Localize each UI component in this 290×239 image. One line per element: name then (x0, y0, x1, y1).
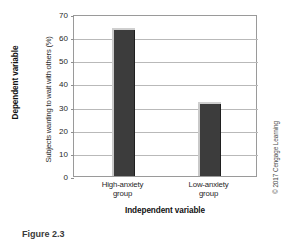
y-axis-tick-label: 30 (44, 105, 68, 113)
gridline (74, 109, 258, 110)
y-axis-tick-label: 40 (44, 81, 68, 89)
gridlines-group: 706050403020100 (74, 16, 258, 178)
bar (198, 104, 221, 176)
x-axis-category-line: group (174, 189, 244, 198)
dependent-variable-title: Dependent variable (11, 35, 20, 131)
bar-top-highlight (198, 102, 221, 104)
independent-variable-title: Independent variable (73, 206, 257, 215)
x-axis-category-line: High-anxiety (88, 180, 158, 189)
bar (112, 30, 135, 176)
y-axis-tick-label: 60 (44, 35, 68, 43)
figure-caption: Figure 2.3 (22, 229, 65, 239)
gridline (74, 85, 258, 86)
gridline (74, 62, 258, 63)
plot-area: 706050403020100 (73, 15, 257, 177)
y-axis-tick-mark (71, 109, 74, 110)
bar-top-highlight (112, 28, 135, 30)
x-axis-category-line: group (88, 189, 158, 198)
y-axis-tick-label: 10 (44, 151, 68, 159)
y-axis-tick-mark (71, 178, 74, 179)
gridline (74, 155, 258, 156)
x-axis-category-line: Low-anxiety (174, 180, 244, 189)
y-axis-tick-label: 0 (44, 174, 68, 182)
gridline (74, 132, 258, 133)
copyright-credit: © 2017 Cengage Learning (272, 102, 279, 214)
gridline (74, 39, 258, 40)
y-axis-tick-label: 50 (44, 58, 68, 66)
figure-container: Dependent variable Subjects wanting to w… (0, 0, 290, 239)
y-axis-tick-mark (71, 62, 74, 63)
x-axis-category-label: High-anxietygroup (88, 180, 158, 199)
y-axis-tick-label: 70 (44, 12, 68, 20)
y-axis-tick-mark (71, 39, 74, 40)
y-axis-tick-mark (71, 16, 74, 17)
y-axis-tick-mark (71, 85, 74, 86)
y-axis-tick-mark (71, 155, 74, 156)
x-axis-category-label: Low-anxietygroup (174, 180, 244, 199)
y-axis-tick-mark (71, 132, 74, 133)
y-axis-tick-label: 20 (44, 128, 68, 136)
